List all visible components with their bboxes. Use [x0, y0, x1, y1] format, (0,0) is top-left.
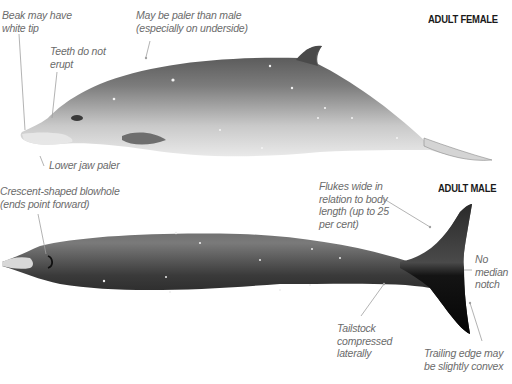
- annotation-notch: No median notch: [475, 253, 508, 291]
- annotation-lower-jaw: Lower jaw paler: [49, 159, 120, 172]
- annotation-trailing-edge: Trailing edge may be slightly convex: [424, 347, 503, 372]
- annotation-beak-tip: Beak may have white tip: [2, 9, 72, 34]
- annotation-tailstock: Tailstock compressed laterally: [337, 322, 392, 360]
- male-beak: [2, 257, 33, 269]
- heading-adult-male: ADULT MALE: [438, 182, 496, 194]
- annotation-flukes: Flukes wide in relation to body length (…: [319, 180, 389, 230]
- whale-identification-plate: ADULT FEMALE ADULT MALE Beak may have wh…: [0, 0, 512, 384]
- annotation-teeth: Teeth do not erupt: [50, 45, 106, 70]
- female-fluke: [424, 138, 492, 160]
- annotation-blowhole: Crescent-shaped blowhole (ends point for…: [0, 185, 120, 210]
- heading-adult-female: ADULT FEMALE: [428, 13, 498, 25]
- male-whale-body: [2, 204, 472, 334]
- annotation-paler: May be paler than male (especially on un…: [136, 9, 248, 34]
- female-eye: [71, 115, 83, 121]
- male-flukes: [400, 204, 472, 334]
